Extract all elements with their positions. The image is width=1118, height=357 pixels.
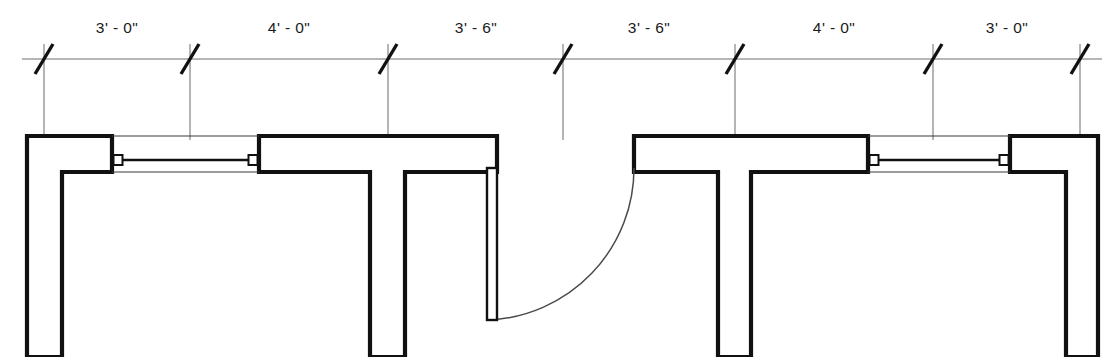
- left-wall-assembly: [27, 136, 112, 357]
- right-window-jamb-1: [870, 155, 879, 165]
- dimension-label-seg-4: 3' - 6": [628, 19, 670, 36]
- architectural-plan-canvas: 3' - 0"4' - 0"3' - 6"3' - 6"4' - 0"3' - …: [0, 0, 1118, 357]
- left-window: [112, 136, 259, 172]
- left-window-jamb-2: [249, 155, 258, 165]
- right-wall-assembly: [1010, 136, 1098, 357]
- left-window-jamb-1: [114, 155, 123, 165]
- wall-group: [27, 136, 1098, 357]
- floor-plan-drawing: 3' - 0"4' - 0"3' - 6"3' - 6"4' - 0"3' - …: [0, 0, 1118, 357]
- right-window: [868, 136, 1010, 172]
- door-leaf-panel: [487, 168, 497, 320]
- dimension-chain-group: 3' - 0"4' - 0"3' - 6"3' - 6"4' - 0"3' - …: [22, 19, 1102, 140]
- left-interior-pier: [259, 136, 497, 357]
- door-group: [487, 168, 634, 320]
- dimension-label-seg-2: 4' - 0": [268, 19, 310, 36]
- dimension-label-seg-3: 3' - 6": [455, 19, 497, 36]
- window-group: [112, 136, 1010, 172]
- right-window-jamb-2: [1000, 155, 1009, 165]
- center-right-tee-wall: [634, 136, 868, 357]
- dimension-label-seg-5: 4' - 0": [813, 19, 855, 36]
- dimension-label-seg-6: 3' - 0": [986, 19, 1028, 36]
- door-swing-arc: [489, 168, 634, 320]
- dimension-label-seg-1: 3' - 0": [96, 19, 138, 36]
